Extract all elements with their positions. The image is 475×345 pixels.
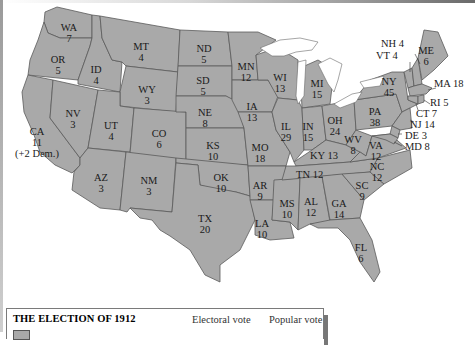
label-al: AL12 [304,196,318,218]
label-nh: NH 4 [381,38,404,49]
label-mt: MT4 [133,41,149,63]
state-ri [418,95,424,104]
label-ut: UT4 [104,120,118,142]
label-ky: KY 13 [310,150,338,161]
legend-box: THE ELECTION OF 1912 Electoral vote Popu… [6,308,324,339]
label-or: OR5 [51,54,66,76]
label-nm: NM3 [141,175,158,197]
label-ar: AR9 [253,180,268,202]
label-az: AZ3 [94,172,108,194]
label-nj: NJ 14 [410,119,435,130]
label-oh: OH24 [327,115,342,137]
label-me: ME6 [418,45,434,67]
label-tn: TN 12 [296,169,323,180]
label-wa: WA7 [61,22,77,44]
legend-popular-vote-header: Popular vote [269,314,322,325]
legend-electoral-vote-header: Electoral vote [192,314,251,325]
label-tx: TX20 [198,213,212,235]
label-wv: WV8 [344,134,362,156]
legend-shadow [324,315,328,345]
label-vt: VT 4 [376,50,398,61]
label-il: IL29 [281,121,292,143]
label-ok: OK10 [213,172,228,194]
label-mi: MI15 [311,78,324,100]
label-de: DE 3 [405,130,427,141]
label-sc: SC9 [356,180,369,202]
label-sd: SD5 [196,75,209,97]
label-nc: NC12 [370,161,385,183]
label-ct: CT 7 [416,108,437,119]
label-nd: ND5 [196,43,211,65]
label-mo: MO18 [252,142,269,164]
label-ri: RI 5 [430,97,448,108]
label-fl: FL6 [355,242,367,264]
label-ia: IA13 [246,101,257,123]
label-id: ID4 [90,64,101,86]
label-ms: MS10 [279,198,294,220]
label-wi: WI13 [273,72,286,94]
label-in: IN15 [302,121,313,143]
label-wy: WY3 [138,84,156,106]
legend-title: THE ELECTION OF 1912 [13,313,136,324]
label-ga: GA14 [331,198,346,220]
label-co: CO6 [152,128,167,150]
label-ca: CA11(+2 Dem.) [15,126,59,159]
label-mn: MN12 [238,61,255,83]
legend-swatch-icon [13,330,30,340]
label-nv: NV3 [65,108,80,130]
label-ma: MA 18 [434,78,463,89]
label-pa: PA38 [369,106,381,128]
label-va: VA12 [369,140,383,162]
label-ne: NE8 [198,107,212,129]
label-la: LA10 [255,218,269,240]
state-fl [310,218,380,282]
label-ny: NY45 [381,76,396,98]
label-ks: KS10 [206,140,219,162]
label-md: MD 8 [405,141,430,152]
